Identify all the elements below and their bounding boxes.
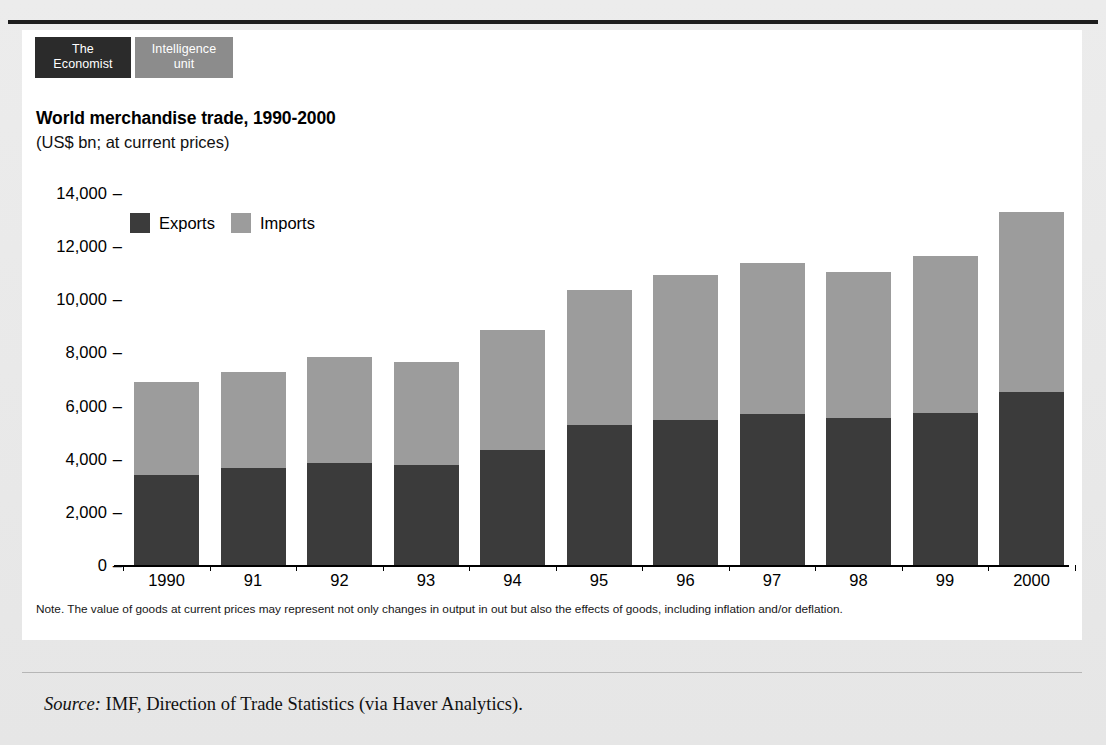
bar-segment-imports xyxy=(826,272,891,418)
bar-stack xyxy=(999,212,1064,565)
page-background: The Economist Intelligence unit World me… xyxy=(0,0,1106,745)
y-axis-tick-label: 4,000 xyxy=(66,449,107,467)
x-axis-tick-label: 96 xyxy=(641,571,730,590)
bar-segment-imports xyxy=(480,330,545,450)
source-text: IMF, Direction of Trade Statistics (via … xyxy=(101,694,523,714)
y-axis-tick-label: 6,000 xyxy=(66,396,107,414)
bar-segment-exports xyxy=(221,468,286,565)
y-axis-tick: 6,000– xyxy=(22,396,122,415)
x-axis-tick-mark xyxy=(1075,565,1076,571)
bar-segment-exports xyxy=(999,392,1064,565)
x-axis-tick-label: 91 xyxy=(209,571,298,590)
bar-stack xyxy=(740,263,805,565)
chart-plot-area: 0–2,000–4,000–6,000–8,000–10,000–12,000–… xyxy=(22,30,1082,590)
bar-segment-exports xyxy=(653,420,718,565)
bar-segment-exports xyxy=(740,414,805,565)
bar-segment-imports xyxy=(221,372,286,468)
bar-segment-exports xyxy=(134,475,199,565)
bar-series-group xyxy=(114,30,1074,590)
bar-stack xyxy=(567,290,632,565)
bar-segment-imports xyxy=(653,275,718,420)
y-axis-tick: 0– xyxy=(22,556,122,575)
bar-stack xyxy=(913,256,978,565)
x-axis-tick-label: 1990 xyxy=(122,571,211,590)
bar-segment-exports xyxy=(480,450,545,565)
y-axis-tick: 8,000– xyxy=(22,343,122,362)
bar-stack xyxy=(221,372,286,565)
bar-segment-imports xyxy=(134,382,199,475)
y-axis-tick-label: 10,000 xyxy=(56,290,106,308)
bar-segment-imports xyxy=(567,290,632,425)
x-axis-tick-label: 98 xyxy=(814,571,903,590)
x-axis-tick-label: 95 xyxy=(555,571,644,590)
bar-segment-exports xyxy=(307,463,372,565)
source-label: Source: xyxy=(44,694,101,714)
y-axis-tick: 2,000– xyxy=(22,502,122,521)
y-axis-tick-label: 14,000 xyxy=(56,184,106,202)
bar-segment-exports xyxy=(394,465,459,565)
chart-card: The Economist Intelligence unit World me… xyxy=(22,30,1082,640)
bar-segment-exports xyxy=(826,418,891,565)
bar-segment-exports xyxy=(913,413,978,565)
y-axis: 0–2,000–4,000–6,000–8,000–10,000–12,000–… xyxy=(22,30,122,590)
x-axis-tick-label: 94 xyxy=(468,571,557,590)
y-axis-tick-label: 12,000 xyxy=(56,237,106,255)
chart-note: Note. The value of goods at current pric… xyxy=(36,602,1056,618)
x-axis-tick-label: 97 xyxy=(728,571,817,590)
bar-segment-imports xyxy=(307,357,372,463)
y-axis-tick: 4,000– xyxy=(22,449,122,468)
bar-stack xyxy=(394,362,459,565)
bar-stack xyxy=(653,275,718,565)
x-axis-tick-label: 93 xyxy=(382,571,471,590)
y-axis-tick: 12,000– xyxy=(22,237,122,256)
bar-segment-imports xyxy=(740,263,805,414)
bar-segment-imports xyxy=(394,362,459,465)
bar-stack xyxy=(826,272,891,565)
bar-segment-imports xyxy=(913,256,978,413)
source-line: Source: IMF, Direction of Trade Statisti… xyxy=(44,694,523,715)
x-axis-tick-label: 99 xyxy=(901,571,990,590)
x-axis-tick-label: 92 xyxy=(295,571,384,590)
bar-segment-imports xyxy=(999,212,1064,391)
y-axis-tick-label: 0 xyxy=(98,556,107,574)
bar-stack xyxy=(134,382,199,565)
source-divider-rule xyxy=(22,672,1082,673)
x-axis-tick-label: 2000 xyxy=(987,571,1076,590)
y-axis-tick-label: 2,000 xyxy=(66,502,107,520)
y-axis-tick: 10,000– xyxy=(22,290,122,309)
bar-stack xyxy=(307,357,372,565)
bar-stack xyxy=(480,330,545,565)
x-axis-line xyxy=(114,565,1069,567)
bar-segment-exports xyxy=(567,425,632,565)
y-axis-tick: 14,000– xyxy=(22,184,122,203)
top-divider-rule xyxy=(8,20,1098,24)
y-axis-tick-label: 8,000 xyxy=(66,343,107,361)
